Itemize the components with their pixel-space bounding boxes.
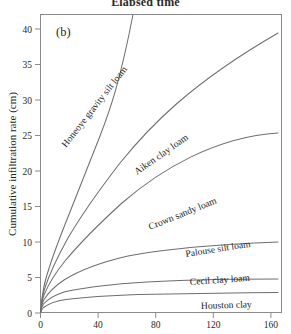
x-tick-80: 80	[151, 320, 161, 330]
panel-label: (b)	[56, 25, 71, 39]
curve-label-honeoye: Honeoye gravity silt loam	[59, 63, 130, 149]
y-tick-25: 25	[23, 131, 33, 141]
y-tick-5: 5	[27, 273, 32, 283]
curve-label-aiken: Aiken clay loam	[132, 131, 191, 177]
y-tick-20: 20	[23, 167, 33, 177]
y-tick-40: 40	[23, 25, 33, 35]
curve-label-palouse: Palouse silt loam	[185, 238, 252, 259]
y-axis-title: Cumulative infiltration rate (cm)	[6, 92, 19, 236]
x-axis-tick-labels: 0 40 80 120 160	[38, 320, 278, 330]
curve-label-crown: Crown sandy loam	[147, 194, 219, 232]
y-axis-ticks	[35, 29, 41, 313]
curve-group	[41, 15, 279, 314]
y-tick-15: 15	[23, 202, 33, 212]
curve-label-houston: Houston clay	[201, 298, 252, 311]
curve-aiken	[41, 33, 279, 313]
x-tick-0: 0	[38, 320, 43, 330]
chart-svg: 0 5 10 15 20 25 30 35 40 0 40 80 120 160…	[0, 0, 291, 334]
y-axis-tick-labels: 0 5 10 15 20 25 30 35 40	[23, 25, 33, 319]
y-tick-10: 10	[23, 238, 33, 248]
curve-label-cecil: Cecil clay loam	[189, 272, 250, 287]
plot-frame	[41, 15, 282, 313]
y-tick-35: 35	[23, 60, 33, 70]
x-tick-120: 120	[206, 320, 221, 330]
figure-container: Elapsed time 0 5 10 15 20 25 30 35 40	[0, 0, 291, 334]
x-tick-160: 160	[264, 320, 279, 330]
x-tick-40: 40	[93, 320, 103, 330]
y-tick-30: 30	[23, 96, 33, 106]
x-axis-ticks	[41, 313, 271, 318]
y-tick-0: 0	[27, 309, 32, 319]
